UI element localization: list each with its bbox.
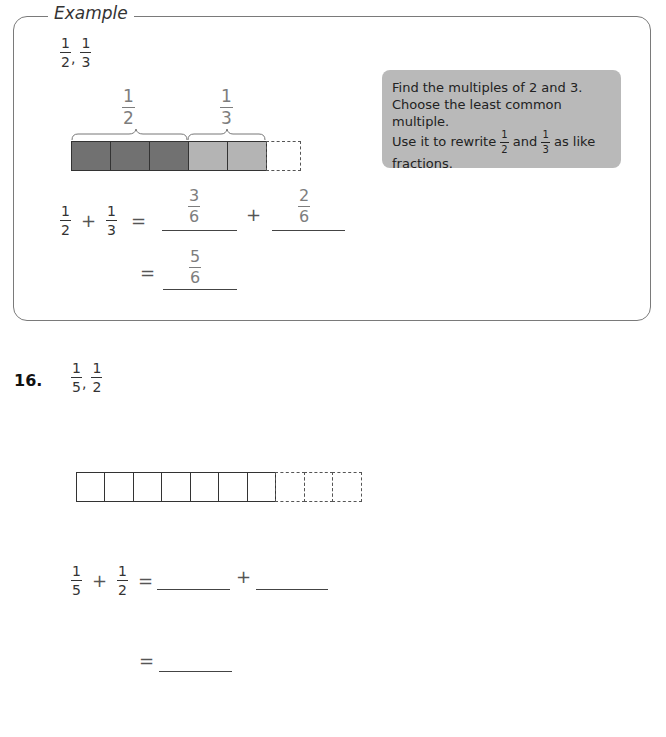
answer-blank-1[interactable] xyxy=(157,589,230,590)
plus-sign: + xyxy=(81,210,96,231)
equals-sign: = xyxy=(131,210,146,231)
fraction: 1 2 xyxy=(60,36,71,69)
problem-fraction-bar[interactable] xyxy=(76,472,362,502)
fraction: 1 5 xyxy=(71,361,82,394)
bar-label-half: 1 2 xyxy=(122,88,135,127)
example-title: Example xyxy=(48,3,134,23)
answer-blank xyxy=(272,230,345,231)
bar-cell[interactable] xyxy=(247,472,277,502)
answer-blank xyxy=(163,289,237,290)
answer-blank-3[interactable] xyxy=(159,671,232,672)
example-equation-lhs: 1 2 + 1 3 = xyxy=(60,204,146,237)
fraction: 1 2 xyxy=(500,130,508,155)
plus-sign: + xyxy=(246,204,261,225)
answer-blank xyxy=(162,230,237,231)
fraction: 1 2 xyxy=(91,361,102,394)
fraction: 1 2 xyxy=(60,204,71,237)
equals-sign: = xyxy=(138,570,153,591)
hint-line-1: Find the multiples of 2 and 3. xyxy=(392,79,611,96)
fraction: 1 3 xyxy=(80,36,91,69)
fraction: 1 5 xyxy=(71,564,82,597)
bar-cell-dark xyxy=(110,141,150,171)
problem-number: 16. xyxy=(14,371,42,390)
example-given-fractions: 1 2 , 1 3 xyxy=(60,36,91,69)
bar-cell[interactable] xyxy=(76,472,105,502)
bar-cell-light xyxy=(188,141,228,171)
bar-cell[interactable] xyxy=(133,472,163,502)
hint-line-3: Use it to rewrite 1 2 and 1 3 as like xyxy=(392,130,611,155)
brace-icon xyxy=(71,128,267,142)
bar-cell-light xyxy=(227,141,267,171)
bar-cell-dark xyxy=(149,141,189,171)
answer-fraction: 2 6 xyxy=(298,188,310,225)
equals-sign: = xyxy=(139,650,154,671)
plus-sign: + xyxy=(236,566,251,587)
problem-equation-lhs: 1 5 + 1 2 = xyxy=(71,564,153,597)
hint-box: Find the multiples of 2 and 3. Choose th… xyxy=(382,70,621,168)
bar-label-third: 1 3 xyxy=(220,88,233,127)
bar-cell-dark xyxy=(71,141,111,171)
bar-cell-dashed[interactable] xyxy=(275,472,305,502)
bar-cell[interactable] xyxy=(104,472,134,502)
plus-sign: + xyxy=(92,570,107,591)
bar-cell[interactable] xyxy=(190,472,220,502)
hint-line-2: Choose the least common multiple. xyxy=(392,96,611,130)
bar-cell-dashed xyxy=(266,141,301,171)
bar-cell-dashed[interactable] xyxy=(304,472,334,502)
answer-fraction: 5 6 xyxy=(189,249,201,286)
answer-blank-2[interactable] xyxy=(256,589,328,590)
equals-sign: = xyxy=(140,262,155,283)
answer-fraction: 3 6 xyxy=(188,188,200,225)
bar-cell[interactable] xyxy=(218,472,248,502)
problem-given-fractions: 1 5 , 1 2 xyxy=(71,361,102,394)
fraction: 1 3 xyxy=(541,130,549,155)
example-fraction-bar xyxy=(71,141,301,171)
fraction: 1 2 xyxy=(117,564,128,597)
fraction: 1 3 xyxy=(106,204,117,237)
bar-cell-dashed[interactable] xyxy=(332,472,362,502)
hint-line-4: fractions. xyxy=(392,155,611,172)
bar-cell[interactable] xyxy=(161,472,191,502)
